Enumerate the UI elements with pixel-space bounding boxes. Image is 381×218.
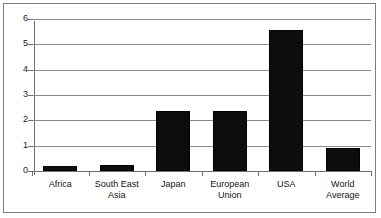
x-tick-origin bbox=[32, 171, 33, 176]
category-label-5: World Average bbox=[315, 179, 372, 201]
y-tick-2 bbox=[28, 120, 33, 121]
y-tick-3 bbox=[28, 95, 33, 96]
bar-africa bbox=[43, 166, 77, 171]
y-axis-label-3: 3 bbox=[4, 90, 28, 99]
y-axis-label-1: 1 bbox=[4, 141, 28, 150]
x-tick-4 bbox=[315, 171, 316, 176]
category-label-4: USA bbox=[258, 179, 315, 190]
plot-area bbox=[35, 22, 374, 174]
gridline-6 bbox=[32, 19, 371, 20]
chart-frame: 0123456 AfricaSouth East AsiaJapanEurope… bbox=[3, 3, 376, 213]
y-axis-label-2: 2 bbox=[4, 115, 28, 124]
category-label-3: European Union bbox=[202, 179, 259, 201]
y-axis-label-4: 4 bbox=[4, 65, 28, 74]
y-tick-6 bbox=[28, 19, 33, 20]
bar-european-union bbox=[213, 111, 247, 171]
x-tick-5 bbox=[371, 171, 372, 176]
y-tick-4 bbox=[28, 70, 33, 71]
y-axis-label-6: 6 bbox=[4, 14, 28, 23]
category-label-1: South East Asia bbox=[89, 179, 146, 201]
y-axis-label-5: 5 bbox=[4, 39, 28, 48]
category-label-0: Africa bbox=[32, 179, 89, 190]
y-tick-1 bbox=[28, 146, 33, 147]
x-tick-3 bbox=[258, 171, 259, 176]
category-label-2: Japan bbox=[145, 179, 202, 190]
bar-japan bbox=[156, 111, 190, 171]
x-tick-0 bbox=[89, 171, 90, 176]
x-tick-2 bbox=[202, 171, 203, 176]
bar-usa bbox=[269, 30, 303, 171]
x-tick-1 bbox=[145, 171, 146, 176]
y-axis-tick-labels: 0123456 bbox=[4, 4, 28, 218]
bar-south-east-asia bbox=[100, 165, 134, 171]
bar-world-average bbox=[326, 148, 360, 171]
y-axis-label-0: 0 bbox=[4, 166, 28, 175]
y-tick-5 bbox=[28, 44, 33, 45]
